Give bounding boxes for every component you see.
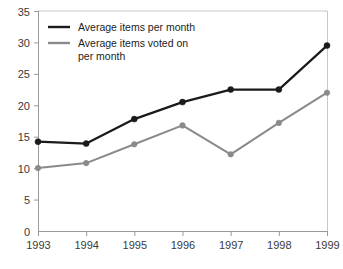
data-point	[180, 99, 186, 105]
x-tick-label: 1999	[315, 239, 339, 251]
legend-label-2: Average items voted on	[78, 37, 188, 49]
line-chart: 0510152025303519931994199519961997199819…	[0, 0, 343, 269]
x-tick-label: 1997	[219, 239, 243, 251]
data-point	[276, 120, 282, 126]
y-tick-label: 30	[18, 37, 30, 49]
x-tick-label: 1996	[171, 239, 195, 251]
legend-label-2-line2: per month	[78, 50, 125, 62]
y-tick-label: 20	[18, 100, 30, 112]
x-tick-label: 1994	[74, 239, 98, 251]
y-tick-label: 10	[18, 163, 30, 175]
legend: Average items per monthAverage items vot…	[48, 21, 195, 62]
data-point	[228, 152, 234, 158]
x-tick-label: 1993	[26, 239, 50, 251]
data-point	[131, 116, 137, 122]
data-point	[35, 139, 41, 145]
chart-canvas: 0510152025303519931994199519961997199819…	[0, 0, 343, 269]
x-tick-label: 1998	[267, 239, 291, 251]
y-tick-label: 0	[24, 226, 30, 238]
data-point	[83, 160, 89, 166]
data-point	[35, 165, 41, 171]
data-point	[180, 123, 186, 129]
y-tick-label: 15	[18, 131, 30, 143]
data-point	[276, 87, 282, 93]
y-tick-label: 5	[24, 194, 30, 206]
data-point	[132, 142, 138, 148]
legend-label-1: Average items per month	[78, 21, 195, 33]
y-tick-label: 35	[18, 6, 30, 18]
data-point	[324, 90, 330, 96]
data-point	[324, 43, 330, 49]
x-tick-label: 1995	[123, 239, 147, 251]
y-tick-label: 25	[18, 68, 30, 80]
data-point	[83, 141, 89, 147]
data-point	[228, 87, 234, 93]
